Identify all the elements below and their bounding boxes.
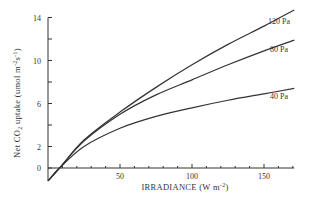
x-axis: 50100150 xyxy=(48,164,294,181)
x-tick-label: 100 xyxy=(186,172,198,181)
y-tick-label: 10 xyxy=(33,57,41,66)
series-lines xyxy=(48,10,294,181)
co2-uptake-chart: 0261014 50100150 120 Pa80 Pa40 Pa Net CO… xyxy=(0,0,319,203)
series-labels: 120 Pa80 Pa40 Pa xyxy=(268,17,290,101)
x-tick-label: 50 xyxy=(116,172,124,181)
series-label-80-pa: 80 Pa xyxy=(270,45,288,54)
y-tick-label: 2 xyxy=(37,143,41,152)
y-tick-label: 14 xyxy=(33,14,41,23)
y-axis-title: Net CO2 uptake (umol m-2s-1) xyxy=(12,48,23,158)
x-tick-label: 150 xyxy=(258,172,270,181)
series-line-40-pa xyxy=(48,88,294,180)
x-axis-title: IRRADIANCE (W m-2) xyxy=(141,182,228,192)
y-tick-label: 6 xyxy=(37,100,41,109)
series-label-120-pa: 120 Pa xyxy=(268,17,290,26)
series-line-80-pa xyxy=(48,40,294,181)
y-axis: 0261014 xyxy=(33,14,52,181)
y-tick-label: 0 xyxy=(37,164,41,173)
series-label-40-pa: 40 Pa xyxy=(270,92,288,101)
